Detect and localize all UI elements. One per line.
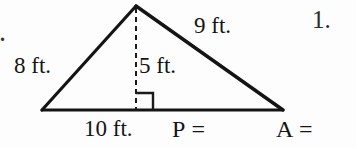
problem-number-label: 1. [312,7,331,32]
triangle-left-side-line [42,6,136,110]
worksheet-problem: 8 ft. 5 ft. 9 ft. 10 ft. P = A = 1. . [0,0,356,148]
left-side-length-label: 8 ft. [14,54,51,77]
stray-dot-mark: . [0,24,5,44]
perimeter-answer-prompt[interactable]: P = [172,117,206,141]
right-side-length-label: 9 ft. [194,14,231,37]
area-answer-prompt[interactable]: A = [276,117,313,141]
base-length-label: 10 ft. [84,117,133,140]
right-angle-marker-icon [136,93,153,110]
height-length-label: 5 ft. [139,54,176,77]
